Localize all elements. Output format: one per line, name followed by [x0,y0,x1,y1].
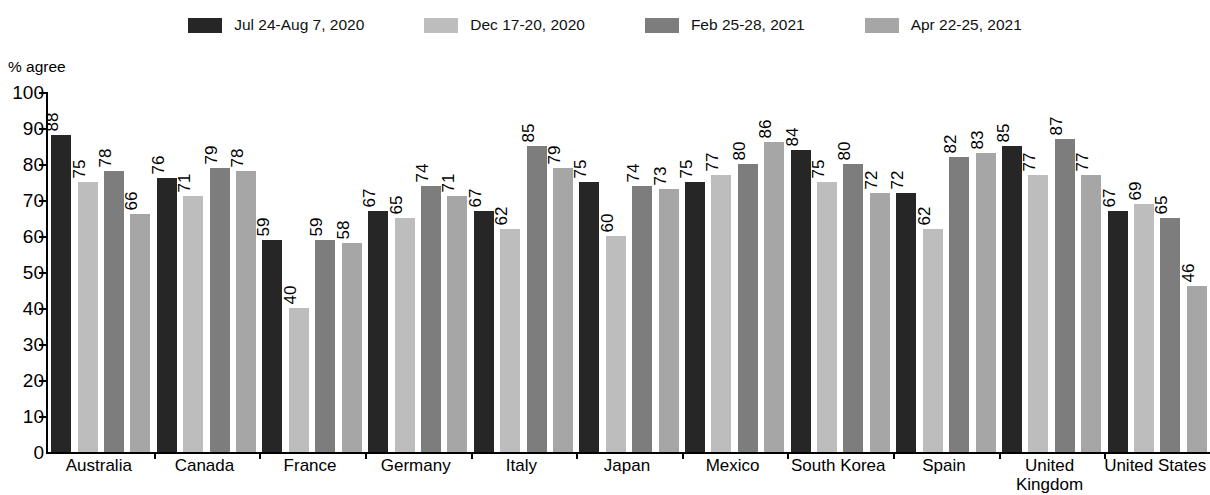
bar-canada-series-2[interactable]: 71 [183,196,203,452]
legend-swatch-series-3 [645,18,679,33]
bar-australia-series-2[interactable]: 75 [78,182,98,452]
bar-value-label: 71 [176,174,193,193]
bar-spain-series-3[interactable]: 82 [949,157,969,452]
bar-germany-series-3[interactable]: 74 [421,186,441,452]
bar-japan-series-2[interactable]: 60 [606,236,626,452]
bar-mexico-series-1[interactable]: 75 [685,182,705,452]
bar-south-korea-series-4[interactable]: 72 [870,193,890,452]
y-tick-20: 20 [2,371,44,390]
y-tick-100: 100 [2,83,44,102]
bar-value-label: 86 [757,120,774,139]
y-axis-tick-mark [39,344,48,346]
bar-value-label: 67 [467,188,484,207]
bar-slot: 71 [444,92,470,452]
bar-south-korea-series-1[interactable]: 84 [791,150,811,452]
bar-united-kingdom-series-4[interactable]: 77 [1081,175,1101,452]
bar-japan-series-1[interactable]: 75 [579,182,599,452]
bar-france-series-1[interactable]: 59 [262,240,282,452]
bar-united-states-series-2[interactable]: 69 [1134,204,1154,452]
bar-japan-series-3[interactable]: 74 [632,186,652,452]
bar-australia-series-3[interactable]: 78 [104,171,124,452]
bar-united-states-series-3[interactable]: 65 [1160,218,1180,452]
bar-south-korea-series-3[interactable]: 80 [843,164,863,452]
bar-australia-series-4[interactable]: 66 [130,214,150,452]
bar-canada-series-3[interactable]: 79 [210,168,230,452]
bar-group-south-korea: 84758072 [787,92,893,452]
bar-canada-series-4[interactable]: 78 [236,171,256,452]
bar-value-label: 74 [414,163,431,182]
bar-japan-series-4[interactable]: 73 [659,189,679,452]
bar-slot: 72 [893,92,919,452]
bar-mexico-series-2[interactable]: 77 [711,175,731,452]
bar-value-label: 40 [282,286,299,305]
bar-germany-series-2[interactable]: 65 [395,218,415,452]
bar-spain-series-2[interactable]: 62 [923,229,943,452]
bar-slot: 67 [471,92,497,452]
bar-value-label: 77 [1074,152,1091,171]
y-tick-30: 30 [2,335,44,354]
x-label-germany: Germany [363,456,469,475]
bar-slot: 76 [154,92,180,452]
bar-value-label: 72 [863,170,880,189]
bar-group-bars: 85778777 [999,92,1105,452]
bar-united-states-series-1[interactable]: 67 [1108,211,1128,452]
bar-australia-series-1[interactable]: 88 [51,135,71,452]
bar-slot: 40 [286,92,312,452]
bar-slot: 84 [787,92,813,452]
bar-germany-series-4[interactable]: 71 [447,196,467,452]
x-axis-category-labels: AustraliaCanadaFranceGermanyItalyJapanMe… [46,456,1208,495]
bar-slot: 69 [1131,92,1157,452]
bar-united-kingdom-series-3[interactable]: 87 [1055,139,1075,452]
x-label-line: Australia [46,456,152,475]
bar-value-label: 78 [97,149,114,168]
bar-france-series-3[interactable]: 59 [315,240,335,452]
bar-value-label: 85 [520,124,537,143]
bar-value-label: 72 [889,170,906,189]
bar-italy-series-4[interactable]: 79 [553,168,573,452]
bar-value-label: 75 [678,160,695,179]
bar-value-label: 67 [1101,188,1118,207]
bar-mexico-series-4[interactable]: 86 [764,142,784,452]
y-tick-10: 10 [2,407,44,426]
legend-item-3[interactable]: Feb 25-28, 2021 [645,17,805,33]
bar-united-kingdom-series-2[interactable]: 77 [1028,175,1048,452]
x-label-south-korea: South Korea [785,456,891,475]
bar-value-label: 60 [599,214,616,233]
bar-slot: 85 [999,92,1025,452]
bar-chart: % agree 1009080706050403020100 887578667… [0,58,1210,495]
bar-italy-series-2[interactable]: 62 [500,229,520,452]
bar-value-label: 84 [784,127,801,146]
bar-group-bars: 76717978 [154,92,260,452]
bar-slot: 74 [629,92,655,452]
bar-value-label: 82 [942,134,959,153]
bar-spain-series-1[interactable]: 72 [896,193,916,452]
bar-group-bars: 59405958 [259,92,365,452]
bar-germany-series-1[interactable]: 67 [368,211,388,452]
bar-mexico-series-3[interactable]: 80 [738,164,758,452]
bar-value-label: 69 [1127,181,1144,200]
bar-spain-series-4[interactable]: 83 [976,153,996,452]
legend-swatch-series-1 [188,18,222,33]
bar-france-series-4[interactable]: 58 [342,243,362,452]
bar-group-bars: 67657471 [365,92,471,452]
bar-united-kingdom-series-1[interactable]: 85 [1002,146,1022,452]
bar-france-series-2[interactable]: 40 [289,308,309,452]
bar-italy-series-3[interactable]: 85 [527,146,547,452]
x-label-united-kingdom: UnitedKingdom [997,456,1103,494]
legend-item-4[interactable]: Apr 22-25, 2021 [865,17,1022,33]
y-tick-50: 50 [2,263,44,282]
bar-italy-series-1[interactable]: 67 [474,211,494,452]
y-axis-tick-mark [39,416,48,418]
bar-value-label: 83 [969,131,986,150]
y-axis-tick-mark [39,272,48,274]
bar-united-states-series-4[interactable]: 46 [1187,286,1207,452]
bar-canada-series-1[interactable]: 76 [157,178,177,452]
x-label-line: Spain [891,456,997,475]
legend-item-1[interactable]: Jul 24-Aug 7, 2020 [188,17,364,33]
legend-item-2[interactable]: Dec 17-20, 2020 [424,17,585,33]
bar-south-korea-series-2[interactable]: 75 [817,182,837,452]
bar-slot: 74 [418,92,444,452]
x-label-line: Italy [469,456,575,475]
bar-value-label: 58 [335,221,352,240]
y-axis-title: % agree [8,58,66,76]
